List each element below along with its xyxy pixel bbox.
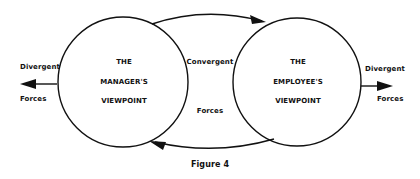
figure-caption: Figure 4 [191, 160, 229, 169]
right-circle-line-3: VIEWPOINT [275, 97, 321, 105]
top-convergent-arc [152, 14, 262, 24]
bottom-convergent-arc [155, 139, 274, 148]
right-circle-line-1: THE [290, 58, 306, 66]
left-forces-label: Forces [20, 95, 46, 103]
left-circle-line-1: THE [116, 58, 132, 66]
left-circle-line-2: MANAGER'S [100, 78, 148, 86]
top-arrowhead-icon [250, 15, 266, 24]
left-arrowhead-icon [20, 79, 36, 89]
convergent-label: Convergent [187, 58, 234, 66]
right-forces-label: Forces [377, 95, 403, 103]
right-divergent-label: Divergent [365, 65, 405, 73]
left-divergent-label: Divergent [20, 63, 60, 71]
right-circle-line-2: EMPLOYEE'S [273, 78, 323, 86]
diagram-canvas [0, 0, 420, 179]
convergent-forces-label: Forces [197, 107, 223, 115]
bottom-arrowhead-icon [149, 141, 166, 150]
left-circle-line-3: VIEWPOINT [101, 97, 147, 105]
right-arrowhead-icon [377, 81, 393, 91]
